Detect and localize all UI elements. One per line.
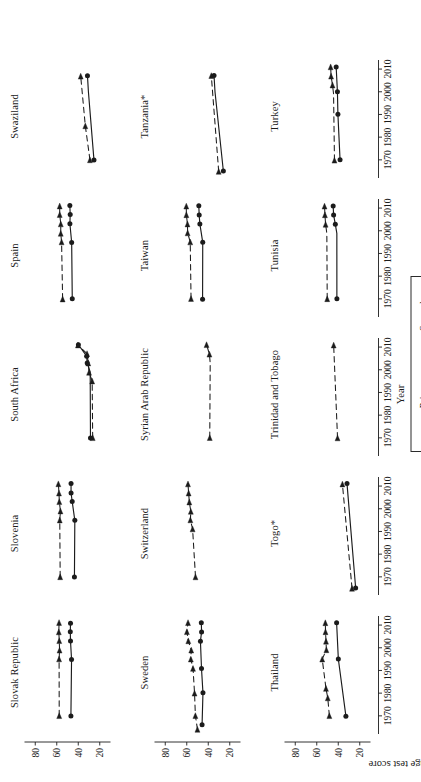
secondary-data-marker [185, 638, 190, 644]
secondary-data-marker [349, 585, 354, 591]
primary-data-marker [196, 203, 201, 208]
secondary-data-marker [328, 73, 333, 79]
secondary-data-marker [326, 713, 331, 719]
panel-swaziland: Swaziland [8, 51, 130, 182]
secondary-data-marker [57, 508, 62, 514]
primary-data-marker [200, 240, 205, 245]
x-tick-label: 1990 [383, 244, 393, 263]
x-tick-label: 2010 [383, 59, 393, 78]
primary-line [71, 484, 75, 577]
secondary-data-marker [188, 656, 193, 662]
y-axis-title: Average test score [368, 759, 421, 770]
primary-data-marker [67, 203, 72, 208]
secondary-data-marker [59, 239, 64, 245]
secondary-line [324, 206, 327, 299]
y-tick-label: 20 [355, 748, 365, 758]
primary-data-marker [68, 621, 73, 626]
secondary-data-marker [183, 212, 188, 218]
panel-slovenia: Slovenia [8, 468, 130, 599]
panel-sweden: Sweden20406080 [138, 607, 260, 738]
secondary-data-marker [187, 239, 192, 245]
legend-item-secondary: Secondary [417, 289, 421, 362]
primary-data-marker [334, 296, 339, 301]
primary-data-marker [69, 499, 74, 504]
x-tick-label: 1990 [383, 105, 393, 124]
panel-togo: Togo*19701980199020002010 [268, 468, 390, 599]
secondary-data-marker [323, 629, 328, 635]
y-tick-label: 80 [160, 748, 170, 758]
primary-data-marker [68, 638, 73, 643]
panel-tunisia: Tunisia19701980199020002010 [268, 190, 390, 321]
panel-taiwan: Taiwan [138, 190, 260, 321]
primary-data-marker [333, 65, 338, 70]
x-tick-label: 2010 [383, 198, 393, 217]
panel-tanzania: Tanzania* [138, 51, 260, 182]
secondary-line [59, 206, 62, 299]
y-tick-label: 40 [333, 748, 343, 758]
primary-data-marker [67, 629, 72, 634]
primary-data-marker [332, 222, 337, 227]
primary-data-marker [334, 620, 339, 625]
y-tick-label: 60 [182, 748, 192, 758]
primary-data-marker [69, 240, 74, 245]
secondary-data-marker [190, 666, 195, 672]
plot-area: 19701980199020002010 [282, 468, 390, 599]
y-tick-label: 60 [52, 748, 62, 758]
secondary-data-marker [56, 499, 61, 505]
secondary-data-marker [78, 73, 83, 79]
primary-line [336, 623, 345, 716]
panel-title: Sweden [138, 607, 149, 738]
panel-title: Taiwan [138, 190, 149, 321]
secondary-data-marker [325, 695, 330, 701]
secondary-data-marker [190, 526, 195, 532]
secondary-data-marker [86, 369, 91, 375]
secondary-data-marker [324, 296, 329, 302]
secondary-data-marker [186, 499, 191, 505]
primary-data-marker [199, 722, 204, 727]
legend-item-primary: Primary [417, 376, 421, 439]
secondary-data-marker [87, 157, 92, 163]
secondary-data-marker [322, 203, 327, 209]
x-axis-title: Year [394, 329, 405, 460]
plot-area [22, 468, 130, 599]
secondary-data-marker [323, 221, 328, 227]
x-tick-label: 2000 [383, 360, 393, 379]
x-tick-label: 1970 [383, 289, 393, 308]
panel-title: Togo* [268, 468, 279, 599]
panel-syrian-arab-republic: Syrian Arab Republic [138, 329, 260, 460]
primary-data-marker [68, 490, 73, 495]
primary-data-marker [199, 666, 204, 671]
legend: Primary Secondary [410, 276, 421, 452]
panel-slovak-republic: Slovak Republic20406080 [8, 607, 130, 738]
primary-data-marker [343, 714, 348, 719]
panel-spain: Spain [8, 190, 130, 321]
secondary-line [342, 484, 352, 588]
y-tick-label: 40 [203, 748, 213, 758]
secondary-data-marker [56, 656, 61, 662]
secondary-data-marker [187, 517, 192, 523]
x-tick-label: 1970 [383, 706, 393, 725]
rotated-figure-container: Slovak Republic20406080SloveniaSouth Afr… [0, 0, 421, 782]
x-tick-label: 1970 [383, 428, 393, 447]
panel-title: South Africa [8, 329, 19, 460]
primary-data-marker [334, 89, 339, 94]
x-tick-label: 1970 [383, 150, 393, 169]
secondary-data-marker [332, 157, 337, 163]
primary-line [69, 206, 71, 299]
x-tick-label: 2000 [383, 82, 393, 101]
panel-south-africa: South Africa [8, 329, 130, 460]
secondary-line [333, 345, 337, 438]
primary-data-marker [335, 656, 340, 661]
secondary-data-marker [55, 481, 60, 487]
panel-title: Tanzania* [138, 51, 149, 182]
secondary-data-marker [184, 629, 189, 635]
secondary-line [206, 345, 210, 438]
primary-data-marker [199, 629, 204, 634]
primary-data-marker [344, 481, 349, 486]
secondary-data-marker [188, 296, 193, 302]
x-tick-label: 1980 [383, 544, 393, 563]
secondary-data-marker [193, 574, 198, 580]
x-tick-label: 1990 [383, 383, 393, 402]
secondary-data-marker [186, 490, 191, 496]
secondary-data-marker [185, 620, 190, 626]
